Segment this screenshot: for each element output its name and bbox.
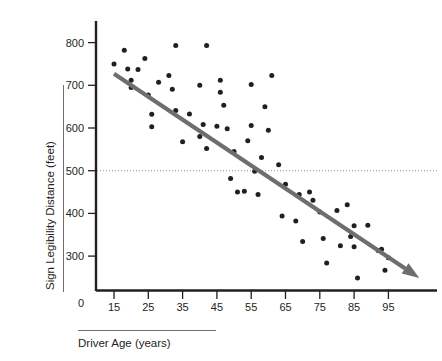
y-tick-label-500: 500 — [66, 165, 84, 177]
data-point — [266, 128, 271, 133]
data-point — [352, 244, 357, 249]
data-point — [300, 239, 305, 244]
y-tick-label-800: 800 — [66, 37, 84, 49]
x-tick-label-15: 15 — [108, 301, 120, 313]
data-point — [149, 124, 154, 129]
data-point — [228, 176, 233, 181]
scatter-plot-figure: Sign Legibility Distance (feet) 800 700 … — [0, 0, 442, 361]
data-point — [310, 198, 315, 203]
x-tick-label-55: 55 — [245, 301, 257, 313]
x-tick-label-35: 35 — [176, 301, 188, 313]
data-point — [293, 219, 298, 224]
data-point — [280, 213, 285, 218]
data-point — [256, 192, 261, 197]
data-point — [173, 43, 178, 48]
data-point — [276, 162, 281, 167]
y-axis-title: Sign Legibility Distance (feet) — [44, 141, 56, 290]
data-point — [218, 90, 223, 95]
data-point — [187, 111, 192, 116]
data-point — [365, 223, 370, 228]
data-point — [204, 43, 209, 48]
data-point — [122, 48, 127, 53]
trend-line-layer — [114, 74, 419, 278]
chart-canvas: Sign Legibility Distance (feet) 800 700 … — [0, 0, 442, 361]
data-point — [156, 80, 161, 85]
x-tick-label-85: 85 — [348, 301, 360, 313]
origin-label: 0 — [78, 297, 84, 309]
data-point — [242, 189, 247, 194]
data-point — [352, 223, 357, 228]
data-point — [245, 138, 250, 143]
x-axis-tick-labels: 15 25 35 45 55 65 75 85 95 — [108, 301, 395, 313]
data-point — [225, 126, 230, 131]
data-point — [197, 83, 202, 88]
data-point — [149, 112, 154, 117]
data-point — [166, 73, 171, 78]
data-point — [307, 190, 312, 195]
data-point — [321, 236, 326, 241]
data-point — [338, 243, 343, 248]
data-point — [214, 124, 219, 129]
data-point — [221, 103, 226, 108]
data-point — [269, 73, 274, 78]
x-tick-label-25: 25 — [142, 301, 154, 313]
data-point — [218, 78, 223, 83]
data-point — [355, 275, 360, 280]
x-axis-ticks — [114, 291, 388, 299]
data-point — [382, 268, 387, 273]
data-points-layer — [112, 43, 391, 280]
data-point — [334, 208, 339, 213]
data-point — [180, 139, 185, 144]
x-tick-label-65: 65 — [279, 301, 291, 313]
y-tick-label-400: 400 — [66, 207, 84, 219]
data-point — [259, 155, 264, 160]
y-tick-label-300: 300 — [66, 250, 84, 262]
y-axis-tick-labels: 800 700 600 500 400 300 0 — [66, 37, 84, 309]
data-point — [249, 82, 254, 87]
data-point — [235, 190, 240, 195]
data-point — [262, 104, 267, 109]
data-point — [170, 87, 175, 92]
data-point — [136, 67, 141, 72]
x-tick-label-45: 45 — [211, 301, 223, 313]
x-tick-label-75: 75 — [314, 301, 326, 313]
y-tick-label-600: 600 — [66, 122, 84, 134]
data-point — [125, 67, 130, 72]
data-point — [142, 56, 147, 61]
data-point — [204, 146, 209, 151]
x-tick-label-95: 95 — [382, 301, 394, 313]
data-point — [249, 123, 254, 128]
data-point — [345, 202, 350, 207]
x-axis-title: Driver Age (years) — [78, 337, 171, 349]
data-point — [112, 61, 117, 66]
data-point — [324, 260, 329, 265]
y-tick-label-700: 700 — [66, 79, 84, 91]
data-point — [201, 122, 206, 127]
